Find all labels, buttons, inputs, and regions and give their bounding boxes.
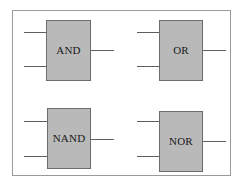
or-output-wire [203,50,226,51]
and-gate-label: AND [56,45,80,56]
nand-output-wire [91,139,114,140]
nor-input-wire-2 [137,156,160,157]
nor-input-wire-1 [137,121,160,122]
diagram-frame: AND OR NAND NOR [12,10,231,176]
or-input-wire-2 [137,66,160,67]
and-output-wire [91,50,114,51]
nor-output-wire [203,141,226,142]
or-input-wire-1 [137,32,160,33]
nand-gate-label: NAND [53,133,86,144]
nor-gate-body[interactable]: NOR [159,111,203,172]
or-gate-body[interactable]: OR [159,20,203,81]
nand-gate-body[interactable]: NAND [47,108,91,169]
nor-gate-label: NOR [169,136,193,147]
logic-gate-diagram: AND OR NAND NOR [0,0,242,188]
or-gate-label: OR [173,45,189,56]
and-gate-body[interactable]: AND [46,20,91,81]
